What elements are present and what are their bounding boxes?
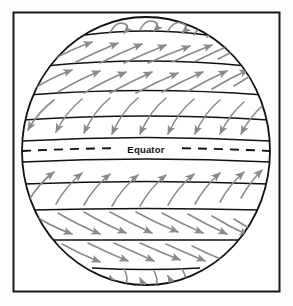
diagram-canvas: Equator — [0, 0, 293, 306]
global-wind-belts-figure: Equator — [0, 0, 293, 306]
equator-label: Equator — [127, 144, 164, 155]
